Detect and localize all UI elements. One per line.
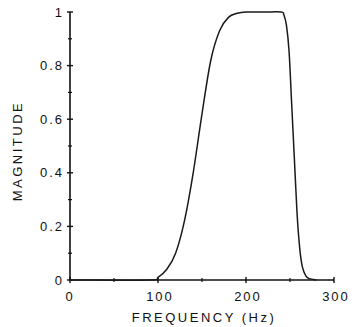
y-tick-label: 0.6: [40, 112, 64, 127]
x-tick-label: 300: [322, 289, 350, 304]
chart: 00.20.40.60.810100200300FREQUENCY (Hz)MA…: [0, 0, 360, 327]
y-tick-label: 0: [55, 273, 64, 288]
x-tick-label: 100: [146, 289, 174, 304]
magnitude-curve: [70, 12, 316, 280]
y-tick-label: 0.4: [40, 165, 64, 180]
y-axis-title: MAGNITUDE: [10, 101, 25, 202]
y-tick-label: 1: [55, 5, 64, 20]
x-tick-label: 200: [234, 289, 262, 304]
y-tick-label: 0.8: [40, 58, 64, 73]
x-tick-label: 0: [65, 289, 74, 304]
y-tick-label: 0.2: [40, 219, 64, 234]
x-axis-title: FREQUENCY (Hz): [132, 310, 277, 325]
